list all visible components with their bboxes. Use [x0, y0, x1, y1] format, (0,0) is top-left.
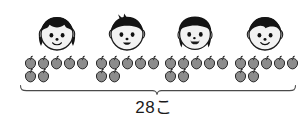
apple-icon: [177, 68, 190, 83]
apple-row-bottom: [164, 68, 190, 83]
boy-face-spiky-icon: [105, 12, 149, 54]
apple-group: [95, 55, 163, 85]
apple-icon: [121, 55, 134, 70]
total-count-label: 28こ: [0, 97, 308, 119]
pictograph-figure: 28こ: [0, 0, 308, 121]
apple-row-bottom: [24, 68, 50, 83]
apple-icon: [164, 68, 177, 83]
children-faces-row: [0, 12, 308, 54]
girl-face-bob-icon: [173, 12, 217, 54]
apple-icon: [134, 55, 147, 70]
apple-icon: [95, 68, 108, 83]
apple-icon: [247, 68, 260, 83]
apple-icon: [24, 68, 37, 83]
apple-icon: [63, 55, 76, 70]
apple-icon: [190, 55, 203, 70]
apple-icon: [286, 55, 299, 70]
apple-icon: [50, 55, 63, 70]
total-brace: [0, 84, 308, 98]
apple-row-bottom: [95, 68, 121, 83]
apple-icon: [216, 55, 229, 70]
apple-icon: [203, 55, 216, 70]
boy-face-short-icon: [243, 12, 287, 54]
apple-icon: [76, 55, 89, 70]
apple-icon: [273, 55, 286, 70]
apple-icon: [147, 55, 160, 70]
apple-icon: [260, 55, 273, 70]
apple-icon: [234, 68, 247, 83]
apple-group: [24, 55, 92, 85]
girl-face-pigtails-icon: [35, 12, 79, 54]
apple-group: [164, 55, 232, 85]
apple-group: [234, 55, 302, 85]
apple-icon: [37, 68, 50, 83]
apple-icon: [108, 68, 121, 83]
apple-groups-area: [0, 55, 308, 85]
apple-row-bottom: [234, 68, 260, 83]
